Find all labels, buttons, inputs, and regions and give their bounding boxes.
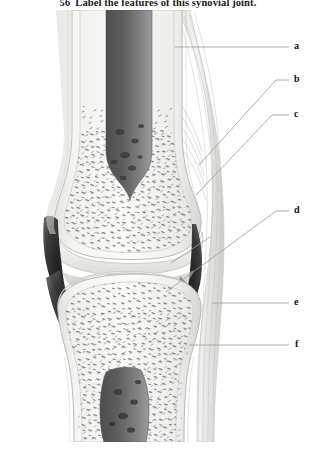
label-letter-b[interactable]: b	[294, 74, 300, 84]
upper-bone	[54, 10, 203, 275]
label-letter-e[interactable]: e	[294, 297, 298, 307]
exercise-page: 56Label the features of this synovial jo…	[0, 0, 316, 449]
question-instruction: Label the features of this synovial join…	[75, 0, 256, 8]
figure-container: a b c d e f	[0, 8, 316, 449]
label-letter-f[interactable]: f	[295, 339, 298, 349]
exercise-title: 56Label the features of this synovial jo…	[0, 0, 316, 8]
label-letter-c[interactable]: c	[294, 109, 298, 119]
synovial-joint-illustration	[28, 10, 228, 442]
question-number: 56	[60, 0, 71, 8]
lower-bone	[58, 271, 201, 442]
label-letter-a[interactable]: a	[294, 41, 299, 51]
label-letter-d[interactable]: d	[294, 205, 300, 215]
